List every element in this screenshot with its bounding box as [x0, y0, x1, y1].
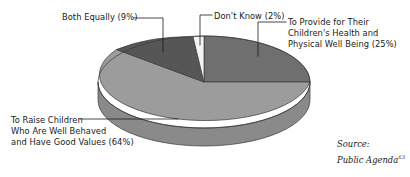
source-name: Public Agenda	[337, 154, 398, 164]
slice-label-both-equally-line1: Both Equally (9%)	[62, 12, 137, 23]
slice-label-provide-line3: Physical Well Being (25%)	[288, 39, 397, 50]
slice-label-provide-line2: Children's Health and	[288, 28, 397, 39]
pie-chart-figure: Both Equally (9%) Don't Know (2%) To Pro…	[0, 0, 410, 177]
slice-label-raise-line2: Who Are Well Behaved	[11, 126, 134, 137]
source-label: Source:	[337, 138, 405, 151]
slice-label-raise-line3: and Have Good Values (64%)	[11, 137, 134, 148]
slice-label-both-equally: Both Equally (9%)	[62, 12, 137, 23]
source-attribution: Source: Public Agenda63	[337, 138, 405, 166]
slice-label-provide-for-children: To Provide for Their Children's Health a…	[288, 17, 397, 51]
slice-label-dont-know: Don't Know (2%)	[214, 11, 284, 22]
slice-label-raise-children: To Raise Children Who Are Well Behaved a…	[11, 115, 134, 149]
slice-label-dont-know-line1: Don't Know (2%)	[214, 11, 284, 22]
slice-label-provide-line1: To Provide for Their	[288, 17, 397, 28]
source-name-line: Public Agenda63	[337, 151, 405, 166]
source-footnote-marker: 63	[398, 154, 405, 160]
slice-label-raise-line1: To Raise Children	[11, 115, 134, 126]
